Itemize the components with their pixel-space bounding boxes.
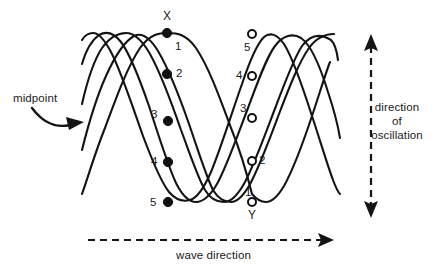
midpoint-arrow-head xyxy=(66,117,84,130)
left-particle-markers xyxy=(162,28,172,206)
particle-marker-left-1 xyxy=(162,28,171,37)
particle-marker-right-4 xyxy=(248,72,256,80)
particle-marker-left-3 xyxy=(163,116,172,125)
point-label-right-3: 3 xyxy=(240,102,246,115)
point-label-right-5: 5 xyxy=(244,41,250,54)
oscillation-direction-label: direction of oscillation xyxy=(361,100,433,142)
particle-marker-right-3 xyxy=(248,114,256,122)
oscillation-label-line-1: direction xyxy=(361,100,433,114)
particle-marker-left-4 xyxy=(163,157,172,166)
midpoint-arrow xyxy=(32,108,84,130)
wave-direction-label: wave direction xyxy=(176,249,251,262)
point-label-left-5: 5 xyxy=(150,196,156,209)
midpoint-arrow-curve xyxy=(32,108,70,126)
point-label-left-2: 2 xyxy=(176,67,182,80)
point-label-right-2: 2 xyxy=(259,154,265,167)
point-label-right-4: 4 xyxy=(236,69,242,82)
endpoint-label-x: X xyxy=(163,10,171,23)
wave-direction-arrow xyxy=(88,233,334,247)
oscillation-label-line-3: oscillation xyxy=(361,128,433,142)
point-label-right-1: 1 xyxy=(245,186,251,199)
midpoint-label: midpoint xyxy=(13,92,57,105)
particle-marker-right-5 xyxy=(248,30,256,38)
wave-diagram-figure: X Y midpoint wave direction direction of… xyxy=(0,0,440,269)
point-label-left-4: 4 xyxy=(151,155,157,168)
endpoint-label-y: Y xyxy=(248,209,256,222)
wave-curves-group xyxy=(82,33,340,202)
particle-marker-left-5 xyxy=(163,197,172,206)
wave-curve-5 xyxy=(82,33,340,201)
oscillation-label-line-2: of xyxy=(361,114,433,128)
particle-marker-right-2 xyxy=(248,157,256,165)
particle-marker-left-2 xyxy=(162,69,171,78)
point-label-left-3: 3 xyxy=(151,108,157,121)
particle-marker-right-1 xyxy=(248,198,256,206)
point-label-left-1: 1 xyxy=(175,40,181,53)
wave-curve-1 xyxy=(82,33,330,202)
wave-curve-4 xyxy=(82,33,340,202)
